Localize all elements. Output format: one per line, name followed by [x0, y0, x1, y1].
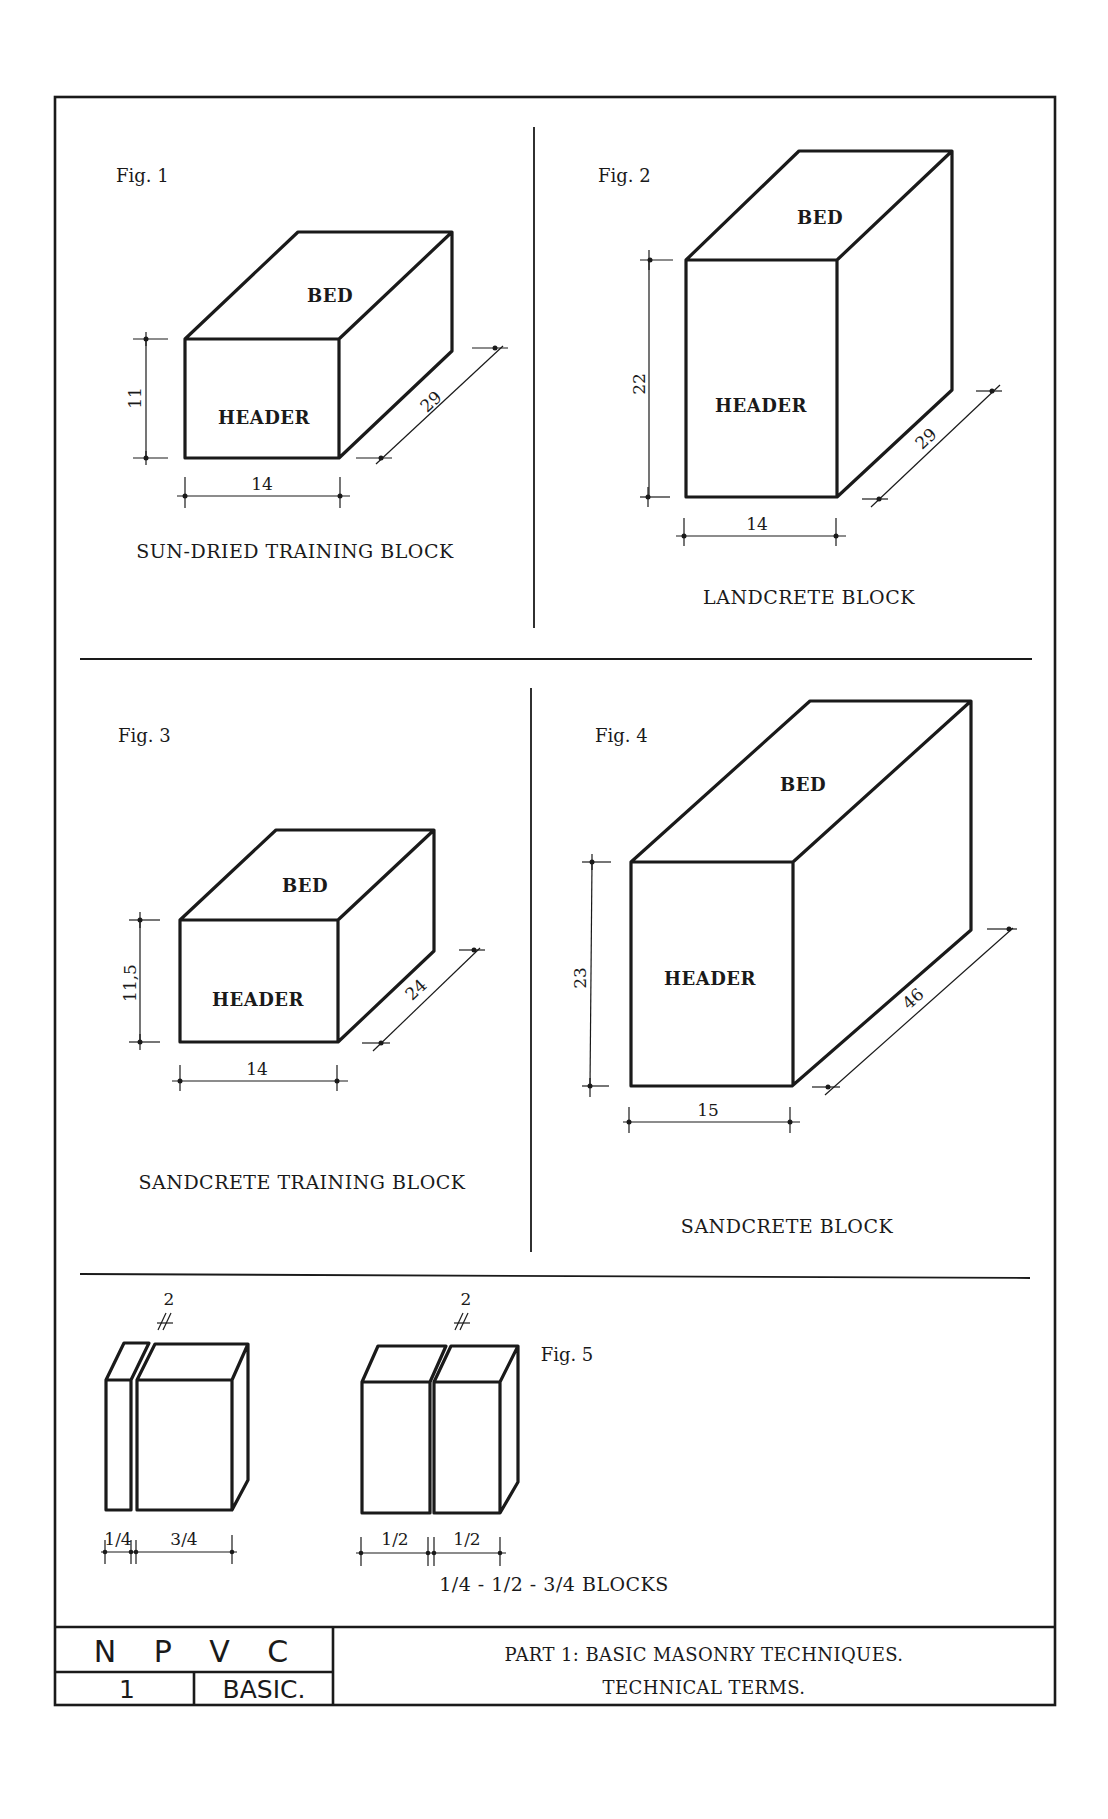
- block-outline: [686, 151, 952, 497]
- svg-text:1/2: 1/2: [453, 1529, 480, 1549]
- three-quarter-block: [137, 1344, 248, 1510]
- width-dimension: 14: [676, 514, 846, 546]
- technical-drawing-sheet: Fig. 1 BED HEADER 11 14 29 SUN-DRIED: [0, 0, 1108, 1819]
- org-code: N P V C: [94, 1634, 303, 1669]
- width-dimension: 14: [172, 1059, 348, 1091]
- width-dimension: 15: [623, 1100, 800, 1133]
- svg-text:1/4: 1/4: [104, 1529, 131, 1549]
- svg-text:15: 15: [697, 1100, 719, 1120]
- bed-label: BED: [282, 875, 328, 896]
- width-dimension: 14: [177, 474, 350, 508]
- figure-label: Fig. 5: [541, 1344, 594, 1365]
- figure-3: Fig. 3 BED HEADER 11,5 14 24 SANDCRETE T…: [118, 725, 485, 1193]
- svg-text:3/4: 3/4: [170, 1529, 197, 1549]
- length-dimension: 29: [356, 346, 508, 465]
- horizontal-divider-2: [80, 1274, 1030, 1278]
- bed-label: BED: [797, 207, 843, 228]
- figure-label: Fig. 1: [116, 165, 169, 186]
- length-dimension: 46: [812, 927, 1017, 1096]
- svg-text:23: 23: [570, 967, 590, 989]
- height-dimension: 22: [629, 250, 673, 507]
- figure-caption: SANDCRETE BLOCK: [681, 1215, 894, 1237]
- height-dimension: 11: [125, 332, 168, 465]
- figure-label: Fig. 2: [598, 165, 651, 186]
- joint-dimension-right: 2: [454, 1289, 471, 1330]
- figure-1: Fig. 1 BED HEADER 11 14 29 SUN-DRIED: [116, 165, 508, 562]
- svg-text:2: 2: [461, 1289, 472, 1309]
- length-dimension: 29: [862, 385, 1002, 507]
- svg-text:22: 22: [629, 373, 649, 395]
- figure-caption: SANDCRETE TRAINING BLOCK: [139, 1171, 466, 1193]
- header-label: HEADER: [212, 989, 305, 1010]
- svg-text:14: 14: [246, 1059, 268, 1079]
- sheet-title-line-1: PART 1: BASIC MASONRY TECHNIQUES.: [505, 1644, 904, 1665]
- svg-text:14: 14: [251, 474, 273, 494]
- title-block: N P V C 1 BASIC. PART 1: BASIC MASONRY T…: [55, 1627, 1055, 1705]
- level-label: BASIC.: [223, 1675, 306, 1704]
- svg-text:11: 11: [125, 387, 145, 409]
- figure-caption: 1/4 - 1/2 - 3/4 BLOCKS: [439, 1573, 669, 1595]
- figure-2: Fig. 2 BED HEADER 22 14 29 LANDCRETE BLO…: [598, 151, 1002, 608]
- figure-label: Fig. 3: [118, 725, 171, 746]
- bed-label: BED: [307, 285, 353, 306]
- sheet-title-line-2: TECHNICAL TERMS.: [603, 1677, 806, 1698]
- svg-text:11,5: 11,5: [120, 964, 140, 1002]
- half-block-2: [434, 1346, 518, 1513]
- height-dimension: 11,5: [120, 912, 160, 1050]
- svg-text:2: 2: [164, 1289, 175, 1309]
- bed-label: BED: [780, 774, 826, 795]
- header-label: HEADER: [715, 395, 808, 416]
- header-label: HEADER: [218, 407, 311, 428]
- figure-caption: LANDCRETE BLOCK: [703, 586, 915, 608]
- block-outline: [180, 830, 434, 1042]
- figure-caption: SUN-DRIED TRAINING BLOCK: [136, 540, 454, 562]
- svg-text:29: 29: [416, 387, 445, 416]
- fraction-dimensions-right: 1/2 1/2: [356, 1529, 506, 1566]
- figure-label: Fig. 4: [595, 725, 648, 746]
- fraction-dimensions-left: 1/4 3/4: [101, 1529, 237, 1564]
- svg-text:1/2: 1/2: [381, 1529, 408, 1549]
- svg-text:29: 29: [911, 424, 940, 453]
- figure-5: Fig. 5 2 1/4 3/4: [101, 1289, 669, 1595]
- svg-text:14: 14: [746, 514, 768, 534]
- joint-dimension-left: 2: [157, 1289, 174, 1330]
- header-label: HEADER: [664, 968, 757, 989]
- sheet-number: 1: [119, 1675, 135, 1704]
- height-dimension: 23: [570, 854, 611, 1097]
- figure-4: Fig. 4 BED HEADER 23 15 46 SANDCRETE BLO…: [570, 701, 1017, 1237]
- block-outline: [631, 701, 971, 1086]
